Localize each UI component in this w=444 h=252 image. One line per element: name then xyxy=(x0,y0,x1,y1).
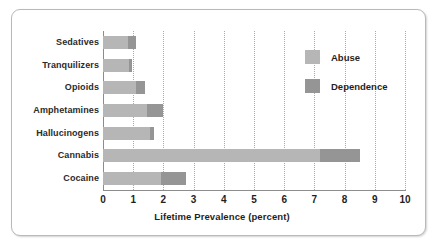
x-axis-tick-labels: 012345678910 xyxy=(0,194,444,208)
y-axis-label-cocaine: Cocaine xyxy=(0,173,99,183)
bar-segment-dependence xyxy=(128,36,136,49)
y-axis-label-amphetamines: Amphetamines xyxy=(0,105,99,115)
x-tick-9: 9 xyxy=(372,194,378,205)
x-axis-title: Lifetime Prevalence (percent) xyxy=(0,211,444,222)
y-axis-label-opioids: Opioids xyxy=(0,82,99,92)
x-tick-2: 2 xyxy=(161,194,167,205)
legend-swatch-abuse xyxy=(305,50,320,64)
y-axis-label-sedatives: Sedatives xyxy=(0,37,99,47)
bar-segment-dependence xyxy=(161,172,186,185)
gridline-2 xyxy=(163,31,164,190)
y-axis-category-labels: SedativesTranquilizersOpioidsAmphetamine… xyxy=(0,31,99,190)
legend-item-abuse: Abuse xyxy=(305,47,415,67)
gridline-5 xyxy=(254,31,255,190)
y-axis-label-cannabis: Cannabis xyxy=(0,150,99,160)
x-tick-6: 6 xyxy=(281,194,287,205)
x-tick-5: 5 xyxy=(251,194,257,205)
chart-legend: AbuseDependence xyxy=(305,47,415,105)
x-tick-10: 10 xyxy=(399,194,410,205)
bar-segment-abuse xyxy=(103,81,136,94)
bar-segment-abuse xyxy=(103,104,147,117)
legend-item-dependence: Dependence xyxy=(305,76,415,96)
x-tick-7: 7 xyxy=(312,194,318,205)
bar-row xyxy=(103,81,145,94)
bar-segment-dependence xyxy=(147,104,164,117)
bar-row xyxy=(103,104,163,117)
x-axis-line xyxy=(103,190,406,191)
bar-row xyxy=(103,36,136,49)
y-axis-label-hallucinogens: Hallucinogens xyxy=(0,128,99,138)
bar-segment-abuse xyxy=(103,149,320,162)
bar-row xyxy=(103,149,360,162)
bar-segment-dependence xyxy=(150,127,155,140)
gridline-3 xyxy=(194,31,195,190)
x-tick-1: 1 xyxy=(130,194,136,205)
bar-segment-dependence xyxy=(129,59,133,72)
legend-label-abuse: Abuse xyxy=(331,52,360,63)
bar-segment-abuse xyxy=(103,172,161,185)
bar-row xyxy=(103,59,132,72)
x-tick-3: 3 xyxy=(191,194,197,205)
gridline-4 xyxy=(224,31,225,190)
gridline-6 xyxy=(284,31,285,190)
x-tick-4: 4 xyxy=(221,194,227,205)
y-axis-label-tranquilizers: Tranquilizers xyxy=(0,60,99,70)
legend-label-dependence: Dependence xyxy=(331,81,388,92)
bar-segment-dependence xyxy=(136,81,145,94)
bar-row xyxy=(103,127,154,140)
chart-figure: SedativesTranquilizersOpioidsAmphetamine… xyxy=(0,0,444,252)
bar-segment-abuse xyxy=(103,127,150,140)
x-tick-0: 0 xyxy=(100,194,106,205)
bar-segment-abuse xyxy=(103,36,128,49)
legend-swatch-dependence xyxy=(305,79,320,93)
bar-segment-abuse xyxy=(103,59,129,72)
bar-segment-dependence xyxy=(320,149,359,162)
x-tick-8: 8 xyxy=(342,194,348,205)
bar-row xyxy=(103,172,186,185)
